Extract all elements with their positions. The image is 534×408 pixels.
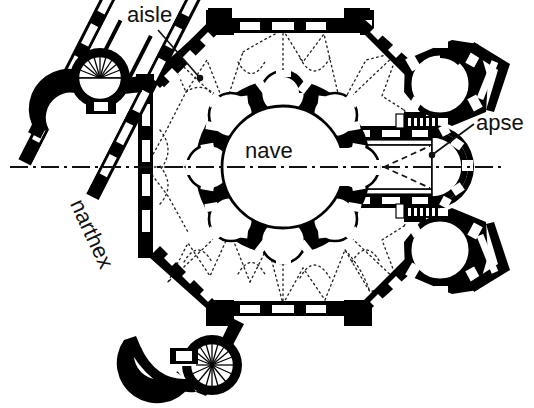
label-apse: apse [476,112,524,134]
floor-plan-figure: aisle apse nave narthex [0,0,534,408]
label-nave: nave [245,140,293,162]
choir-column-cluster-north [396,114,438,128]
choir-column-cluster-south [396,204,438,218]
corner-tower-chapel-se [404,208,510,294]
label-aisle: aisle [127,4,172,26]
outer-wall-top [206,8,374,35]
